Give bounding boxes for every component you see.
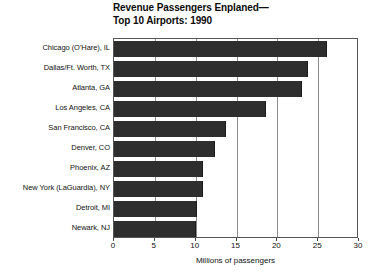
bar-row — [114, 199, 359, 219]
bar — [114, 121, 226, 137]
category-label: Newark, NJ — [0, 218, 110, 238]
category-label: Dallas/Ft. Worth, TX — [0, 58, 110, 78]
x-tick-label: 25 — [313, 241, 322, 250]
bar-row — [114, 179, 359, 199]
bar — [114, 101, 266, 117]
chart-title-line-2: Top 10 Airports: 1990 — [113, 14, 269, 27]
x-tick-label: 5 — [152, 241, 156, 250]
bar-row — [114, 159, 359, 179]
bar-row — [114, 79, 359, 99]
category-label: Phoenix, AZ — [0, 158, 110, 178]
x-tick-label: 30 — [354, 241, 363, 250]
bar-row — [114, 139, 359, 159]
x-tick-label: 20 — [272, 241, 281, 250]
x-tick-label: 15 — [231, 241, 240, 250]
chart-title: Revenue Passengers Enplaned— Top 10 Airp… — [113, 1, 269, 27]
bar-row — [114, 99, 359, 119]
bar-row — [114, 219, 359, 239]
bar-chart: Revenue Passengers Enplaned— Top 10 Airp… — [0, 0, 376, 278]
bar — [114, 61, 308, 77]
category-label: New York (LaGuardia), NY — [0, 178, 110, 198]
category-label: Chicago (O'Hare), IL — [0, 38, 110, 58]
category-label: San Francisco, CA — [0, 118, 110, 138]
x-axis-title: Millions of passengers — [113, 256, 358, 265]
category-label: Detroit, MI — [0, 198, 110, 218]
bar-row — [114, 59, 359, 79]
x-tick-label: 10 — [190, 241, 199, 250]
plot-area — [113, 38, 358, 238]
chart-title-line-1: Revenue Passengers Enplaned— — [113, 1, 269, 14]
bar — [114, 221, 196, 237]
x-tick-label: 0 — [111, 241, 115, 250]
category-axis-labels: Chicago (O'Hare), ILDallas/Ft. Worth, TX… — [0, 38, 110, 238]
bar — [114, 181, 203, 197]
category-label: Los Angeles, CA — [0, 98, 110, 118]
bar — [114, 81, 302, 97]
category-label: Atlanta, GA — [0, 78, 110, 98]
bar — [114, 41, 327, 57]
category-label: Denver, CO — [0, 138, 110, 158]
bar-series — [114, 39, 357, 237]
x-axis-ticks: 051015202530 — [113, 238, 358, 250]
bar-row — [114, 39, 359, 59]
bar — [114, 161, 203, 177]
bar — [114, 141, 215, 157]
bar — [114, 201, 197, 217]
bar-row — [114, 119, 359, 139]
